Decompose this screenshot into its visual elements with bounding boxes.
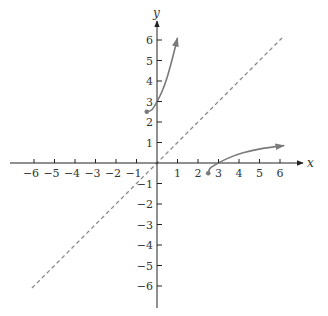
y-tick-label: −1 <box>137 178 153 191</box>
curve-f-start-dot <box>144 109 149 114</box>
y-tick-label: 4 <box>146 75 153 88</box>
y-tick-label: 3 <box>146 96 153 109</box>
y-tick-label: −6 <box>137 280 153 293</box>
curve-f-inverse-start-dot <box>206 171 211 176</box>
x-tick-label: 6 <box>277 167 284 180</box>
x-tick-label: −4 <box>64 167 80 180</box>
x-tick-label: −3 <box>84 167 100 180</box>
x-tick-label: −5 <box>43 167 59 180</box>
x-tick-label: 2 <box>195 167 202 180</box>
curves <box>144 38 284 176</box>
y-tick-label: −4 <box>137 239 153 252</box>
x-tick-label: 5 <box>256 167 263 180</box>
x-tick-label: 4 <box>236 167 243 180</box>
y-tick-label: 2 <box>146 116 153 129</box>
y-axis-label: y <box>152 6 160 20</box>
y-tick-label: −5 <box>137 260 153 273</box>
y-tick-label: 1 <box>146 137 153 150</box>
x-tick-label: −6 <box>23 167 39 180</box>
y-tick-label: −2 <box>137 198 153 211</box>
y-tick-label: 5 <box>146 55 153 68</box>
y-tick-label: 6 <box>146 34 153 47</box>
y-tick-label: −3 <box>137 219 153 232</box>
axes <box>10 21 303 308</box>
x-tick-label: 1 <box>174 167 181 180</box>
x-tick-label: −2 <box>105 167 121 180</box>
function-inverse-plot: −6−5−4−3−2−1123456−6−5−4−3−2−1123456 x y <box>0 0 328 316</box>
x-tick-label: 3 <box>215 167 222 180</box>
x-axis-label: x <box>307 156 314 170</box>
